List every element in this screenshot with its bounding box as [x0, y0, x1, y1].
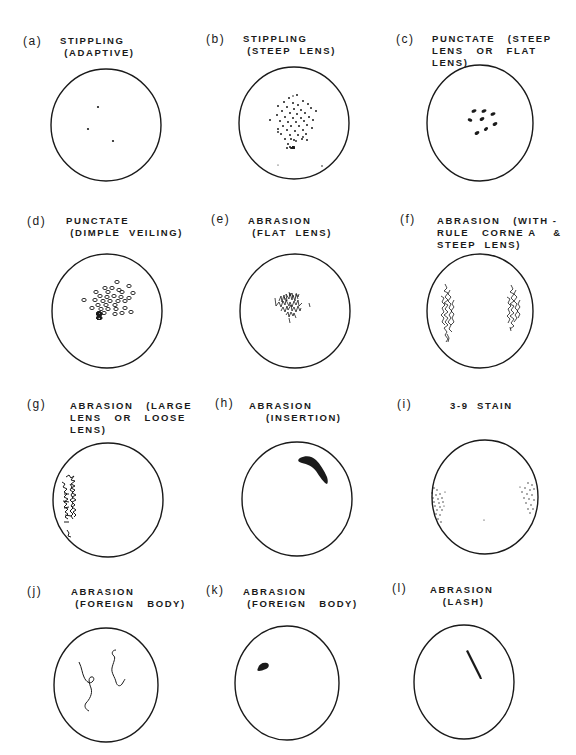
panel-c-punctate-spots	[467, 109, 498, 136]
panel-e-cornea-circle	[240, 254, 350, 368]
panel-e-abrasion-scribble	[275, 292, 310, 323]
panel-i-stain-dots-nasal	[431, 487, 445, 522]
panel-i-cornea-circle	[432, 440, 538, 554]
panel-l-cornea-circle	[414, 625, 514, 739]
panel-l-lash-line	[466, 650, 482, 679]
panel-d-dimple-rings	[82, 280, 135, 319]
panel-h-insertion-smear	[298, 456, 327, 484]
panel-f-abrasion-scribble-temporal	[507, 285, 520, 331]
panel-b-cornea-circle	[239, 67, 349, 179]
panel-g-abrasion-scribble	[62, 475, 76, 537]
panel-k-foreign-body-blob	[257, 663, 268, 671]
panel-k-cornea-circle	[235, 626, 339, 740]
panel-i-stain-dots-temporal	[519, 482, 534, 513]
corneal-staining-figures	[0, 0, 576, 755]
panel-a-cornea-circle	[51, 69, 161, 181]
panel-b-stipple-dots	[269, 94, 323, 167]
panel-f-abrasion-scribble-nasal	[441, 284, 454, 342]
panel-j-cornea-circle	[54, 628, 158, 742]
panel-c-cornea-circle	[427, 65, 533, 181]
panel-h-cornea-circle	[242, 442, 352, 556]
panel-j-foreign-body-tracks	[79, 650, 125, 711]
panel-i-center-dot	[483, 519, 484, 520]
panel-d-cornea-circle	[52, 254, 162, 368]
panel-a-stipple-dots	[87, 106, 114, 142]
